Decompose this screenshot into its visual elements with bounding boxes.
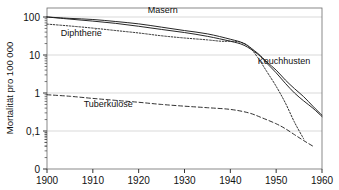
series-line-diphtherie	[47, 24, 304, 139]
y-tick-label: 100	[23, 12, 40, 23]
y-axis-title-group: Mortalität pro 100 000	[4, 42, 15, 134]
y-tick-label: 10	[29, 50, 41, 61]
x-axis-ticks	[47, 169, 322, 173]
y-axis-tick-labels: 1001010,10	[23, 12, 40, 175]
x-tick-label: 1900	[36, 175, 59, 186]
chart-canvas: 1001010,10 1900191019201930194019501960 …	[0, 0, 339, 190]
series-label-masern: Masern	[148, 5, 178, 15]
x-tick-label: 1920	[128, 175, 151, 186]
mortality-chart-figure: 1001010,10 1900191019201930194019501960 …	[0, 0, 339, 190]
y-tick-label: 0,1	[26, 126, 40, 137]
y-tick-label: 1	[34, 88, 40, 99]
series-label-keuchhusten: Keuchhusten	[258, 56, 311, 66]
series-annotation-labels: MasernKeuchhustenDiphtherieTuberkulose	[61, 5, 311, 109]
x-axis-tick-labels: 1900191019201930194019501960	[36, 175, 334, 186]
series-label-tuberkulose: Tuberkulose	[84, 99, 133, 109]
x-tick-label: 1940	[219, 175, 242, 186]
y-axis-title: Mortalität pro 100 000	[4, 42, 15, 134]
y-tick-label: 0	[34, 164, 40, 175]
series-label-diphtherie: Diphtherie	[61, 28, 102, 38]
x-tick-label: 1950	[265, 175, 288, 186]
x-tick-label: 1960	[311, 175, 334, 186]
x-tick-label: 1910	[82, 175, 105, 186]
x-tick-label: 1930	[173, 175, 196, 186]
